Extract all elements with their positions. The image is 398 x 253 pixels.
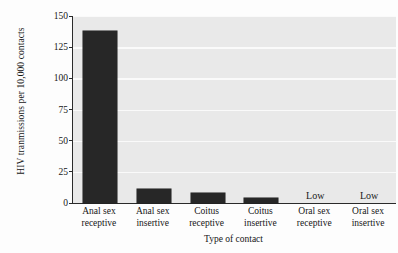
bar bbox=[244, 198, 278, 203]
bar-value-label: Low bbox=[360, 190, 378, 201]
y-axis-tick: 125 bbox=[0, 41, 72, 53]
y-axis-tick: 25 bbox=[0, 166, 72, 178]
bar-slot: Low bbox=[342, 16, 396, 203]
x-axis-tick-label-line: Oral sex bbox=[287, 206, 341, 218]
x-axis-tick-label-line: insertive bbox=[341, 218, 395, 230]
x-axis-tick-label-line: Anal sex bbox=[126, 206, 180, 218]
x-axis-tick-label: Coitusinsertive bbox=[234, 206, 288, 229]
x-axis-title: Type of contact bbox=[72, 234, 395, 244]
y-axis-tick: 75 bbox=[0, 104, 72, 116]
x-axis-tick-label: Anal sexinsertive bbox=[126, 206, 180, 229]
x-axis-tick-label-line: Coitus bbox=[234, 206, 288, 218]
bar-slot bbox=[235, 16, 289, 203]
x-axis-tick-label-line: Anal sex bbox=[72, 206, 126, 218]
bar bbox=[137, 189, 171, 203]
x-axis-tick-label-line: receptive bbox=[180, 218, 234, 230]
x-axis-tick-label-line: Coitus bbox=[180, 206, 234, 218]
x-axis-tick-label: Anal sexreceptive bbox=[72, 206, 126, 229]
x-axis-tick-label-line: receptive bbox=[287, 218, 341, 230]
bar bbox=[83, 31, 117, 203]
x-axis-tick-label: Oral sexreceptive bbox=[287, 206, 341, 229]
x-axis-tick-label-line: insertive bbox=[126, 218, 180, 230]
x-axis-tick-label-line: receptive bbox=[72, 218, 126, 230]
y-axis-tick: 50 bbox=[0, 135, 72, 147]
plot-area: LowLow bbox=[72, 16, 396, 204]
x-axis-tick-label-line: Oral sex bbox=[341, 206, 395, 218]
y-axis-tick: 100 bbox=[0, 72, 72, 84]
bar-slot bbox=[181, 16, 235, 203]
bar-chart-figure: HIV tranmissions per 10,000 contacts 025… bbox=[0, 0, 398, 253]
x-axis-tick-label: Coitusreceptive bbox=[180, 206, 234, 229]
bar-slot bbox=[127, 16, 181, 203]
y-axis-tick: 150 bbox=[0, 10, 72, 22]
bar-slot bbox=[73, 16, 127, 203]
x-axis-tick-label-line: insertive bbox=[234, 218, 288, 230]
y-axis-tick: 0 bbox=[0, 197, 72, 209]
bar-series: LowLow bbox=[73, 16, 396, 203]
x-axis-tick-label: Oral sexinsertive bbox=[341, 206, 395, 229]
bar-value-label: Low bbox=[306, 190, 324, 201]
bar bbox=[191, 193, 225, 203]
bar-slot: Low bbox=[288, 16, 342, 203]
